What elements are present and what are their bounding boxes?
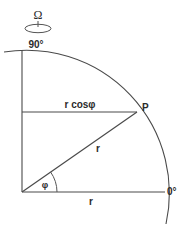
point-p-label: P xyxy=(142,102,149,113)
phi-angle-label: φ xyxy=(42,180,49,190)
phi-angle-arc xyxy=(51,172,58,192)
meridian-arc xyxy=(4,50,169,224)
geometry-diagram: Ω 90° P 0° r cosφ r r φ xyxy=(0,0,180,236)
rotation-indicator-group: Ω xyxy=(25,8,51,33)
pole-90-label: 90° xyxy=(28,39,43,50)
radius-line xyxy=(22,112,137,192)
r-radius-label: r xyxy=(96,143,100,154)
equator-0-label: 0° xyxy=(167,186,177,197)
omega-label: Ω xyxy=(34,8,43,22)
r-baseline-label: r xyxy=(89,196,93,207)
r-cos-phi-label: r cosφ xyxy=(64,99,95,110)
